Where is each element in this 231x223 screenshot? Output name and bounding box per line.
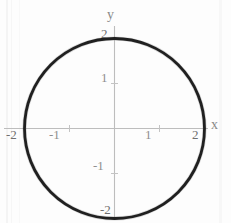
- y-tick-label-neg2: -2: [100, 203, 111, 216]
- plot-canvas: [0, 0, 231, 223]
- x-tick-label-neg1: -1: [49, 128, 60, 141]
- y-axis-label: y: [107, 8, 114, 22]
- circle-plot-figure: y x 2 1 -1 -2 -2 -1 1 2: [0, 0, 231, 223]
- x-axis-label: x: [211, 118, 218, 132]
- x-tick-label-1: 1: [145, 128, 152, 141]
- y-tick-label-2: 2: [101, 27, 108, 40]
- y-tick-label-neg1: -1: [93, 159, 104, 172]
- x-tick-label-2: 2: [192, 128, 199, 141]
- x-tick-label-neg2: -2: [6, 128, 17, 141]
- y-tick-label-1: 1: [101, 71, 108, 84]
